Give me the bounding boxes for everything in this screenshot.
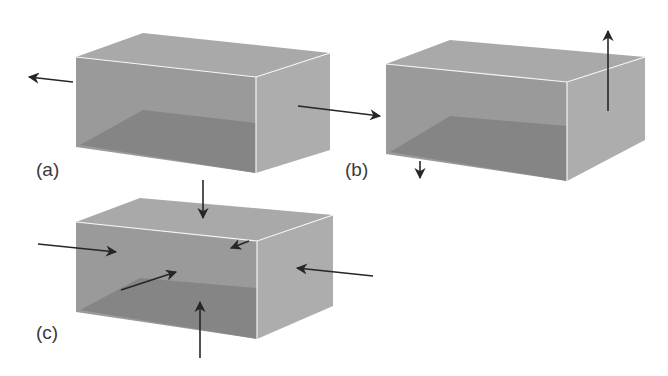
panel-a: (a) [29, 33, 380, 180]
arrow-left-outward-icon [29, 77, 73, 82]
panel-label-a: (a) [36, 159, 59, 180]
stress-diagram: (a) (b) (c) [0, 0, 668, 376]
box-c [76, 198, 333, 339]
box-a [76, 33, 330, 173]
panel-label-c: (c) [36, 322, 58, 343]
box-b [386, 40, 645, 181]
panel-b: (b) [345, 31, 645, 181]
panel-label-b: (b) [345, 159, 368, 180]
panel-c: (c) [36, 180, 373, 358]
